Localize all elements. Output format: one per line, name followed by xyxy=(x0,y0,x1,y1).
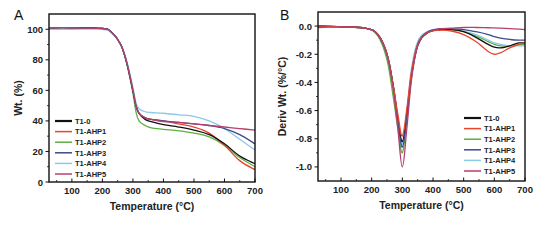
x-tick-label: 100 xyxy=(333,184,349,195)
x-tick-label: 200 xyxy=(94,185,110,196)
x-axis-title: Temperature (°C) xyxy=(379,199,464,211)
y-tick-label: 0 xyxy=(38,177,43,188)
legend-item-label: T1-AHP4 xyxy=(75,159,107,168)
x-tick-label: 600 xyxy=(217,185,233,196)
y-tick-label: 40 xyxy=(32,115,43,126)
legend-item-label: T1-AHP2 xyxy=(484,135,515,144)
legend-item-label: T1-AHP5 xyxy=(75,170,106,179)
y-axis-title: Deriv Wt. (%/°C) xyxy=(276,57,288,136)
chart-panel-a: A 100200300400500600700020406080100Tempe… xyxy=(0,0,273,226)
y-tick-label: -0.4 xyxy=(296,77,313,88)
legend-item-label: T1-0 xyxy=(75,117,90,126)
x-tick-label: 400 xyxy=(156,185,172,196)
chart-panel-b: B 1002003004005006007000.0-0.2-0.4-0.6-0… xyxy=(273,0,546,226)
y-axis-title: Wt. (%) xyxy=(12,80,24,116)
legend-item-label: T1-AHP1 xyxy=(75,127,106,136)
y-tick-label: 80 xyxy=(32,54,43,65)
y-tick-label: -0.6 xyxy=(296,105,312,116)
dtg-derivative-chart: 1002003004005006007000.0-0.2-0.4-0.6-0.8… xyxy=(273,0,546,226)
legend-item-label: T1-0 xyxy=(484,114,499,123)
y-tick-label: -0.2 xyxy=(296,49,312,60)
x-tick-label: 100 xyxy=(64,185,80,196)
series-line-t1-ahp2 xyxy=(318,26,525,153)
legend: T1-0T1-AHP1T1-AHP2T1-AHP3T1-AHP4T1-AHP5 xyxy=(55,117,107,179)
series-line-t1-ahp5 xyxy=(49,28,255,130)
y-tick-label: 0.0 xyxy=(299,21,312,32)
x-tick-label: 500 xyxy=(186,185,202,196)
y-tick-label: -1.0 xyxy=(296,161,312,172)
legend-item-label: T1-AHP5 xyxy=(484,167,515,176)
x-axis-title: Temperature (°C) xyxy=(110,200,195,212)
y-tick-label: 20 xyxy=(32,146,43,157)
legend-item-label: T1-AHP4 xyxy=(484,156,516,165)
y-tick-label: 100 xyxy=(27,24,43,35)
legend-item-label: T1-AHP1 xyxy=(484,124,515,133)
x-tick-label: 500 xyxy=(456,184,472,195)
y-tick-label: -0.8 xyxy=(296,133,312,144)
x-tick-label: 600 xyxy=(486,184,502,195)
x-tick-label: 400 xyxy=(425,184,441,195)
x-tick-label: 700 xyxy=(517,184,533,195)
tga-weight-chart: 100200300400500600700020406080100Tempera… xyxy=(0,0,273,226)
y-tick-label: 60 xyxy=(32,85,43,96)
legend-item-label: T1-AHP2 xyxy=(75,138,106,147)
x-tick-label: 200 xyxy=(364,184,380,195)
x-tick-label: 700 xyxy=(247,185,263,196)
x-tick-label: 300 xyxy=(125,185,141,196)
x-tick-label: 300 xyxy=(394,184,410,195)
legend: T1-0T1-AHP1T1-AHP2T1-AHP3T1-AHP4T1-AHP5 xyxy=(464,114,516,176)
legend-item-label: T1-AHP3 xyxy=(75,149,106,158)
legend-item-label: T1-AHP3 xyxy=(484,146,515,155)
